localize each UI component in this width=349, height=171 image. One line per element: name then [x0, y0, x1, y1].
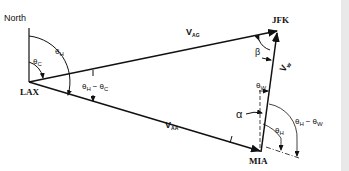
beta-label: β — [255, 47, 260, 57]
vector-v-aa — [29, 82, 260, 151]
vector-v-ag — [29, 31, 277, 82]
wind-triangle-diagram: North LAX JFK MIA θC θH θH−θC VAG VAA β … — [0, 0, 349, 171]
theta-h-minus-theta-c-label: θH−θC — [82, 82, 109, 92]
alpha-pointer — [246, 112, 262, 114]
theta-w-label: θW — [256, 81, 266, 91]
theta-c-label: θC — [33, 57, 42, 67]
alpha-label: α — [236, 108, 243, 120]
lax-label: LAX — [20, 87, 40, 97]
beta-pointer — [262, 58, 271, 60]
theta-h-minus-theta-w-label: θH−θW — [295, 117, 323, 127]
v-aa-label: VAA — [165, 120, 179, 131]
mia-label: MIA — [249, 156, 268, 166]
v-w-label: Vw — [278, 59, 293, 74]
jfk-label: JFK — [272, 15, 289, 25]
north-label: North — [4, 13, 26, 23]
theta-h-mia-label: θH — [275, 126, 284, 136]
theta-h-label: θH — [55, 47, 64, 57]
mia-extension-line — [266, 147, 299, 158]
beta-arc — [259, 40, 270, 50]
v-ag-label: VAG — [186, 27, 200, 38]
